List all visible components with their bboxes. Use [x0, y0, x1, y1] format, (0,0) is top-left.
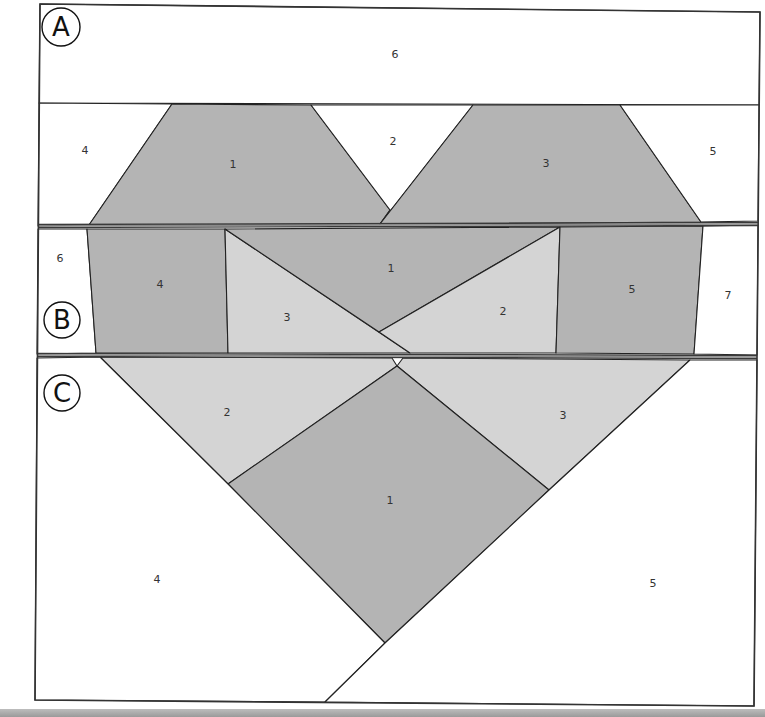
- piece-label: 3: [543, 157, 550, 170]
- piece-label: 5: [710, 145, 717, 158]
- piece-b4: [87, 229, 228, 353]
- piece-a6: [39, 4, 760, 105]
- section-c: [35, 357, 757, 706]
- pattern-svg: 641235643125723145 ABC: [0, 0, 765, 717]
- piece-label: 1: [230, 158, 237, 171]
- piece-label: 4: [154, 573, 161, 586]
- section-letter: C: [53, 378, 71, 408]
- piece-label: 2: [390, 135, 397, 148]
- piece-label: 2: [224, 406, 231, 419]
- section-letter: A: [52, 12, 70, 42]
- section-badge-c: C: [44, 375, 80, 411]
- piece-label: 1: [387, 494, 394, 507]
- piece-label: 5: [629, 283, 636, 296]
- section-letter: B: [53, 305, 71, 335]
- section-badge-a: A: [42, 8, 80, 46]
- piece-label: 5: [650, 577, 657, 590]
- section-badge-b: B: [44, 302, 80, 338]
- piece-label: 4: [157, 278, 164, 291]
- piece-label: 6: [392, 48, 399, 61]
- piece-label: 3: [284, 311, 291, 324]
- piece-label: 6: [57, 252, 64, 265]
- piece-label: 2: [500, 305, 507, 318]
- piece-label: 7: [725, 289, 732, 302]
- piece-label: 3: [560, 409, 567, 422]
- piece-label: 1: [388, 262, 395, 275]
- section-b: [37, 225, 758, 355]
- pattern-diagram: 641235643125723145 ABC: [0, 0, 765, 717]
- page-edge-band: [0, 709, 765, 717]
- section-a: [38, 4, 760, 226]
- piece-label: 4: [82, 144, 89, 157]
